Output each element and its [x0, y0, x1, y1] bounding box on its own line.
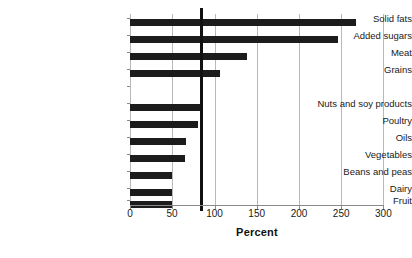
x-axis-title: Percent [130, 226, 384, 238]
x-axis-label-0: 0 [110, 208, 150, 219]
x-axis-label-300: 300 [363, 208, 403, 219]
x-axis-label-200: 200 [279, 208, 319, 219]
category-label-poultry: Poultry [286, 116, 412, 126]
category-label-beans-and-peas: Beans and peas [286, 167, 412, 177]
y-axis-tick [127, 52, 130, 53]
bar-beans-and-peas [130, 172, 172, 179]
category-label-grains: Grains [286, 65, 412, 75]
category-label-oils: Oils [286, 133, 412, 143]
y-axis-tick [127, 103, 130, 104]
category-label-vegetables: Vegetables [286, 150, 412, 160]
x-axis-label-150: 150 [237, 208, 277, 219]
bar-poultry [130, 121, 198, 128]
bar-meat [130, 53, 247, 60]
bar-vegetables [130, 155, 185, 162]
y-axis-tick [127, 69, 130, 70]
category-label-dairy: Dairy [286, 184, 412, 194]
category-label-meat: Meat [286, 48, 412, 58]
bar-dairy [130, 189, 172, 196]
y-axis-tick [127, 120, 130, 121]
y-axis-tick [127, 154, 130, 155]
category-label-added-sugars: Added sugars [286, 31, 412, 41]
y-axis-tick [127, 18, 130, 19]
category-label-nuts-and-soy-products: Nuts and soy products [286, 99, 412, 109]
bar-oils [130, 138, 186, 145]
x-axis-label-250: 250 [321, 208, 361, 219]
category-label-solid-fats: Solid fats [286, 14, 412, 24]
x-axis-label-100: 100 [195, 208, 235, 219]
y-axis-tick [127, 35, 130, 36]
reference-line [200, 8, 203, 211]
y-axis-tick [127, 86, 130, 87]
bar-grains [130, 70, 220, 77]
x-axis-label-50: 50 [152, 208, 192, 219]
bar-nuts-and-soy-products [130, 104, 200, 111]
bar-chart: Solid fats Added sugars Meat Grains Nuts… [0, 0, 412, 258]
y-axis-tick [127, 137, 130, 138]
y-axis-tick [127, 171, 130, 172]
y-axis-tick [127, 188, 130, 189]
y-axis-tick [127, 200, 130, 201]
